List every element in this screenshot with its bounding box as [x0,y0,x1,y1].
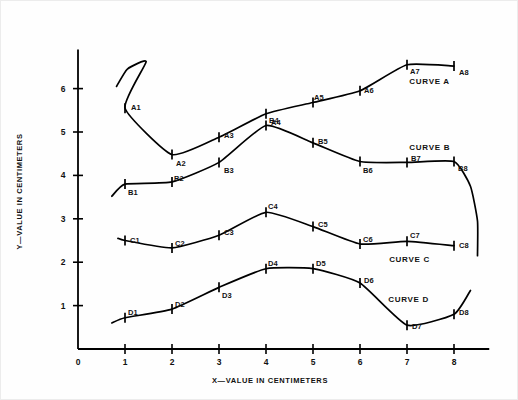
curve-name-label: CURVE B [409,143,450,152]
data-point-label: A6 [364,86,374,95]
x-axis-title: X—VALUE IN CENTIMETERS [140,376,400,385]
y-tick-label: 1 [55,301,71,311]
data-point-label: B1 [128,188,138,197]
chart-figure: Y—VALUE IN CENTIMETERS X—VALUE IN CENTIM… [0,0,518,400]
x-tick-label: 4 [258,357,274,367]
data-point-label: D2 [175,300,185,309]
data-point-label: B8 [458,164,468,173]
y-tick-label: 5 [55,127,71,137]
curve-name-label: CURVE D [388,295,429,304]
data-point-label: C7 [410,231,420,240]
curve-name-label: CURVE A [409,77,449,86]
data-point-label: A2 [176,159,186,168]
data-point-label: D1 [128,308,138,317]
data-point-label: B6 [363,166,373,175]
x-tick-label: 8 [446,357,462,367]
chart-canvas [1,1,518,400]
data-point-label: D5 [316,259,326,268]
x-tick-label: 0 [70,357,86,367]
data-point-label: D6 [364,276,374,285]
x-tick-label: 7 [399,357,415,367]
data-point-label: A8 [459,68,469,77]
data-point-label: C5 [318,220,328,229]
data-point-label: C1 [130,236,140,245]
data-point-label: B4 [269,116,279,125]
data-point-label: D7 [412,322,422,331]
data-point-label: B2 [174,174,184,183]
x-tick-label: 6 [352,357,368,367]
data-point-label: D4 [268,259,278,268]
data-point-label: B5 [318,137,328,146]
y-axis-title: Y—VALUE IN CENTIMETERS [15,127,24,257]
x-tick-label: 2 [164,357,180,367]
x-tick-label: 3 [211,357,227,367]
data-point-label: C8 [459,241,469,250]
x-tick-label: 1 [117,357,133,367]
data-point-label: A3 [224,131,234,140]
data-point-label: C2 [175,239,185,248]
y-tick-label: 3 [55,214,71,224]
data-point-label: C6 [363,235,373,244]
data-point-label: C4 [268,202,278,211]
data-point-label: D8 [459,308,469,317]
data-point-label: B3 [224,166,234,175]
curve-name-label: CURVE C [389,255,430,264]
y-tick-label: 4 [55,170,71,180]
y-tick-label: 2 [55,257,71,267]
y-tick-label: 6 [55,84,71,94]
data-point-label: A7 [410,67,420,76]
data-point-markers [125,60,454,330]
curve-paths [112,61,478,326]
data-point-label: B7 [411,154,421,163]
data-point-label: C3 [224,228,234,237]
data-point-label: A1 [131,103,141,112]
data-point-label: D3 [222,291,232,300]
data-point-label: A5 [314,93,324,102]
x-tick-label: 5 [305,357,321,367]
